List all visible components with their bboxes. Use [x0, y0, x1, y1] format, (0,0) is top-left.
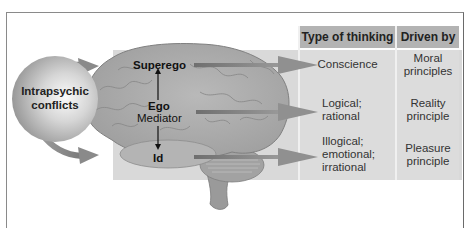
- row-ego-driven: Reality principle: [397, 97, 459, 123]
- cell-text: irrational: [322, 161, 394, 174]
- intrapsychic-conflicts-label: Intrapsychic conflicts: [12, 84, 98, 112]
- row-superego-driven: Moral principles: [397, 52, 459, 78]
- superego-label: Superego: [133, 59, 186, 71]
- row-id-driven: Pleasure principle: [397, 142, 459, 168]
- ego-label: Ego: [148, 100, 170, 112]
- row-superego-thinking: Conscience: [300, 58, 395, 71]
- cell-text: Conscience: [300, 58, 395, 71]
- label-line-1: Intrapsychic: [12, 84, 98, 98]
- cell-text: principle: [397, 110, 459, 123]
- row-id-thinking: Illogical; emotional; irrational: [322, 135, 394, 174]
- cell-text: Pleasure: [397, 142, 459, 155]
- label-line-2: conflicts: [12, 98, 98, 112]
- row-ego-thinking: Logical; rational: [322, 97, 394, 123]
- cell-text: principle: [397, 155, 459, 168]
- cell-text: rational: [322, 110, 394, 123]
- cell-text: Moral: [397, 52, 459, 65]
- cell-text: emotional;: [322, 148, 394, 161]
- cell-text: Logical;: [322, 97, 394, 110]
- ego-mediator-label: Mediator: [137, 112, 182, 124]
- cell-text: principles: [397, 65, 459, 78]
- cell-text: Reality: [397, 97, 459, 110]
- cell-text: Illogical;: [322, 135, 394, 148]
- id-label: Id: [153, 152, 163, 164]
- brain-illustration: [85, 44, 289, 168]
